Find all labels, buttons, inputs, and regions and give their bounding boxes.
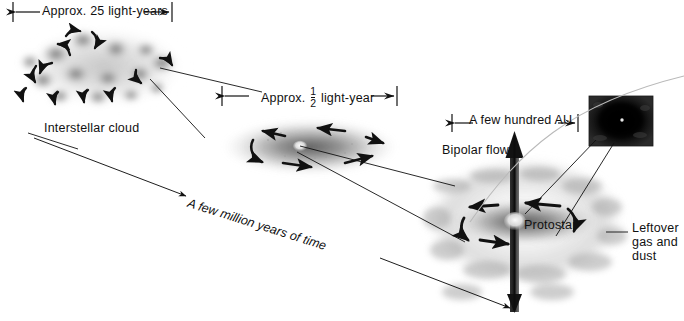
fraction-numerator: 1 bbox=[310, 86, 316, 97]
dimension-label-disk-prefix: Approx. bbox=[261, 91, 305, 105]
dimension-label-protostar: A few hundred AU bbox=[469, 113, 572, 127]
leader-line-icon bbox=[28, 133, 78, 149]
protostar-inset-photo bbox=[589, 96, 653, 146]
diagram-artwork bbox=[0, 0, 684, 321]
fraction-denominator: 2 bbox=[310, 98, 316, 109]
label-leftover-gas-and-dust: Leftover gas and dust bbox=[632, 221, 682, 263]
dimension-label-cloud: Approx. 25 light-years bbox=[42, 4, 168, 18]
collapsing-cloud-disk-illustration bbox=[224, 120, 396, 174]
label-protostar: Protostar bbox=[524, 218, 577, 232]
fraction-one-half: 1 2 bbox=[310, 86, 316, 108]
label-bipolar-flow: Bipolar flow bbox=[442, 143, 509, 157]
label-interstellar-cloud: Interstellar cloud bbox=[44, 121, 139, 135]
dimension-label-disk: Approx. 1 2 light-year bbox=[261, 86, 374, 108]
dimension-label-disk-suffix: light-year bbox=[321, 91, 374, 105]
star-formation-diagram: Approx. 25 light-years Approx. 1 2 light… bbox=[0, 0, 684, 321]
protostar-core bbox=[504, 212, 526, 230]
